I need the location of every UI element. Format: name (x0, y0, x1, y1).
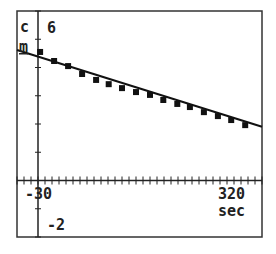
y-unit-c: c (20, 18, 29, 36)
data-point (160, 97, 166, 103)
data-point (147, 92, 153, 98)
data-point (79, 71, 85, 77)
x-unit-label: sec (218, 202, 245, 220)
data-point (93, 77, 99, 83)
data-point (187, 104, 193, 110)
y-unit-m: m (19, 38, 28, 56)
data-point (119, 85, 125, 91)
data-point (174, 101, 180, 107)
data-point (51, 58, 57, 64)
x-min-label: -30 (25, 185, 52, 203)
data-point (215, 113, 221, 119)
data-point (37, 49, 43, 55)
data-point (65, 63, 71, 69)
y-min-label: -2 (47, 216, 65, 234)
data-point (242, 122, 248, 128)
x-max-label: 320 (218, 185, 245, 203)
data-point (133, 89, 139, 95)
data-point (228, 117, 234, 123)
y-max-label: 6 (47, 19, 56, 37)
calculator-graph: c 6 m -30 320 sec -2 (0, 0, 276, 254)
data-point (106, 81, 112, 87)
data-point (201, 109, 207, 115)
